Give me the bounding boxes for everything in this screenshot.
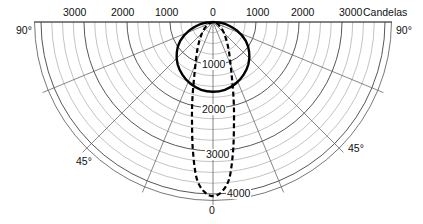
scale-label-left-2000: 2000 (111, 7, 134, 18)
scale-label-left-3000: 3000 (63, 7, 86, 18)
scale-label-right-1000: 1000 (246, 7, 269, 18)
axis-value-4000: 4000 (226, 188, 251, 199)
angle-label-bottom-0: 0 (209, 205, 215, 216)
axis-value-3000: 3000 (205, 149, 230, 160)
scale-label-center-0: 0 (210, 7, 216, 18)
angle-label-right-90: 90° (396, 25, 412, 36)
scale-label-left-1000: 1000 (155, 7, 178, 18)
angle-label-left-45: 45° (76, 156, 92, 167)
scale-label-right-2000: 2000 (291, 7, 314, 18)
angle-label-left-90: 90° (16, 25, 32, 36)
scale-label-right-3000: 3000 (339, 7, 362, 18)
axis-value-2000: 2000 (201, 104, 226, 115)
axis-value-1000: 1000 (201, 59, 226, 70)
unit-label: Candelas (363, 7, 407, 18)
angle-label-right-45: 45° (348, 143, 364, 154)
